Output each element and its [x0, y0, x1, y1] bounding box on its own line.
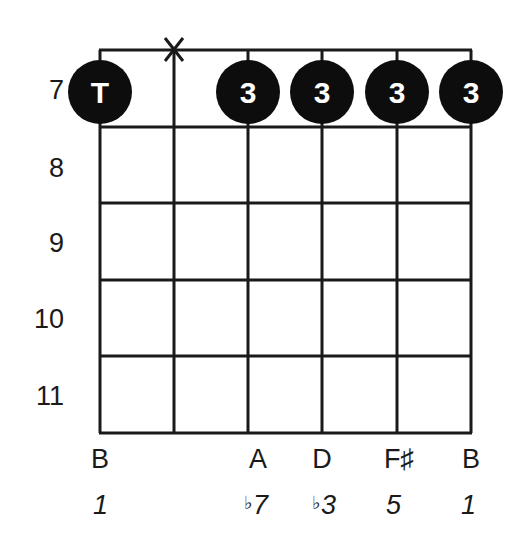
interval-label: 1 — [70, 488, 130, 520]
fret-number: 8 — [14, 153, 64, 183]
note-name: D — [292, 444, 352, 474]
finger-label: 3 — [314, 76, 331, 109]
fretboard-grid: T 3 3 3 3 — [0, 0, 515, 558]
interval-label — [144, 488, 204, 520]
note-name: B — [70, 444, 130, 474]
flat-symbol: ♭ — [312, 493, 320, 513]
finger-label: 3 — [463, 76, 480, 109]
fret-number: 11 — [14, 381, 64, 411]
note-name: A — [228, 444, 288, 474]
note-name: B — [441, 444, 501, 474]
interval-label: 1 — [438, 488, 498, 520]
interval-value: 5 — [386, 490, 401, 520]
interval-label: 5 — [363, 488, 423, 520]
interval-value: 1 — [461, 490, 476, 520]
finger-label-thumb: T — [91, 76, 109, 109]
finger-label: 3 — [389, 76, 406, 109]
flat-symbol: ♭ — [244, 493, 252, 513]
interval-value: 1 — [93, 490, 108, 520]
chord-diagram: T 3 3 3 3 7 8 9 10 11 B A D F♯ B 1 ♭7 ♭3… — [0, 0, 515, 558]
interval-value: 3 — [321, 490, 336, 520]
interval-label: ♭3 — [294, 488, 354, 520]
finger-label: 3 — [240, 76, 257, 109]
fret-number: 10 — [14, 304, 64, 334]
interval-label: ♭7 — [226, 488, 286, 520]
interval-value: 7 — [253, 490, 268, 520]
fret-number: 7 — [14, 75, 64, 105]
note-name: F♯ — [369, 444, 429, 474]
fret-number: 9 — [14, 228, 64, 258]
finger-dots — [68, 60, 503, 124]
